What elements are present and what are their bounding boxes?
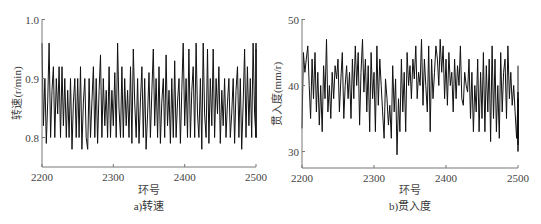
y-axis-title: 贯入度(mm/r) xyxy=(270,62,284,126)
y-tick-label: 40 xyxy=(288,80,300,92)
line-series-penetration xyxy=(302,39,518,155)
x-tick-label: 2300 xyxy=(102,171,125,183)
chart-caption: b)贯入度 xyxy=(389,199,431,213)
x-tick-label: 2400 xyxy=(174,171,197,183)
chart-rotation-speed: 0.80.91.0 2200230024002500 环号 a)转速 转速(r/… xyxy=(10,14,268,214)
y-tick-label: 0.8 xyxy=(25,132,39,144)
x-tick-label: 2500 xyxy=(507,172,530,184)
x-axis-title: 环号 xyxy=(138,184,160,196)
chart-canvas: 0.80.91.0 2200230024002500 环号 a)转速 转速(r/… xyxy=(0,0,541,224)
x-tick-label: 2200 xyxy=(291,172,314,184)
chart-caption: a)转速 xyxy=(134,199,165,213)
y-tick-label: 0.9 xyxy=(25,73,39,85)
y-axis-title: 转速(r/min) xyxy=(10,66,24,119)
y-tick-label: 50 xyxy=(288,14,300,26)
y-tick-label: 1.0 xyxy=(25,14,39,26)
x-tick-label: 2400 xyxy=(435,172,458,184)
y-tick-label: 30 xyxy=(288,146,300,158)
chart-penetration: 304050 2200230024002500 环号 b)贯入度 贯入度(mm/… xyxy=(270,14,530,214)
x-tick-label: 2200 xyxy=(31,171,54,183)
x-tick-label: 2500 xyxy=(245,171,268,183)
x-tick-label: 2300 xyxy=(363,172,386,184)
x-axis-title: 环号 xyxy=(399,184,421,196)
line-series-rotation-speed xyxy=(42,43,256,149)
